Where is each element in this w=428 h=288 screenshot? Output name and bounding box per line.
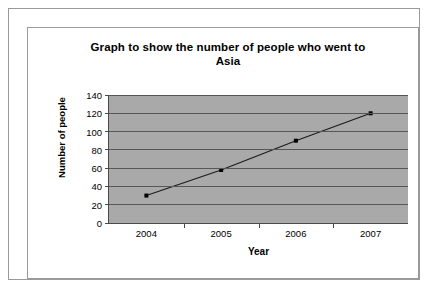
series-line bbox=[146, 113, 370, 195]
chart-title-line-2: Asia bbox=[216, 55, 241, 67]
y-axis-tick-label: 120 bbox=[76, 108, 102, 119]
y-axis-tick-label: 60 bbox=[76, 163, 102, 174]
gridline bbox=[109, 113, 408, 114]
outer-page-frame: Graph to show the number of people who w… bbox=[8, 8, 420, 280]
y-axis-tick-label: 100 bbox=[76, 126, 102, 137]
y-axis-tick-mark bbox=[105, 131, 109, 132]
y-axis-tick-mark bbox=[105, 168, 109, 169]
x-axis-tick-label: 2005 bbox=[184, 228, 259, 239]
gridline bbox=[109, 186, 408, 187]
y-axis-tick-label: 0 bbox=[76, 218, 102, 229]
y-axis-tick-mark bbox=[105, 223, 109, 224]
chart-title: Graph to show the number of people who w… bbox=[68, 40, 388, 68]
chart-title-line-1: Graph to show the number of people who w… bbox=[91, 41, 366, 53]
gridline bbox=[109, 95, 408, 96]
y-axis-tick-mark bbox=[105, 95, 109, 96]
gridline bbox=[109, 168, 408, 169]
x-axis-tick-mark bbox=[333, 224, 334, 228]
data-point-marker bbox=[294, 139, 298, 143]
x-axis-tick-labels: 2004200520062007 bbox=[109, 228, 408, 242]
y-axis-tick-label: 40 bbox=[76, 181, 102, 192]
y-axis-tick-mark bbox=[105, 113, 109, 114]
x-axis-tick-label: 2007 bbox=[333, 228, 408, 239]
x-axis-tick-label: 2004 bbox=[109, 228, 184, 239]
y-axis-tick-labels: 140120100806040200 bbox=[72, 95, 102, 223]
gridline bbox=[109, 204, 408, 205]
gridline bbox=[109, 131, 408, 132]
x-axis-tick-mark bbox=[259, 224, 260, 228]
data-point-marker bbox=[144, 194, 148, 198]
y-axis-tick-label: 80 bbox=[76, 144, 102, 155]
plot-area bbox=[109, 95, 408, 223]
y-axis-title: Number of people bbox=[56, 78, 67, 198]
y-axis-tick-label: 20 bbox=[76, 199, 102, 210]
y-axis-tick-mark bbox=[105, 204, 109, 205]
chart-container: Graph to show the number of people who w… bbox=[27, 27, 419, 279]
x-axis-tick-mark bbox=[184, 224, 185, 228]
gridline bbox=[109, 149, 408, 150]
y-axis-tick-mark bbox=[105, 186, 109, 187]
x-axis-tick-label: 2006 bbox=[259, 228, 334, 239]
x-axis-title: Year bbox=[109, 246, 408, 257]
y-axis-tick-label: 140 bbox=[76, 90, 102, 101]
y-axis-tick-mark bbox=[105, 149, 109, 150]
